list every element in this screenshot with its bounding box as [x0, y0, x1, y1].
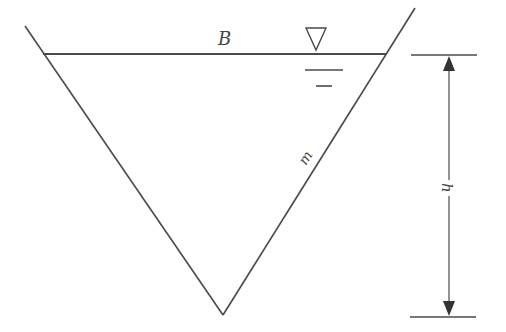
- side-slope-label: m: [295, 148, 316, 168]
- depth-label: h: [438, 183, 456, 193]
- arrow-down-icon: [443, 301, 455, 316]
- water-surface-triangle-icon: [305, 28, 343, 86]
- arrow-up-icon: [443, 56, 455, 71]
- top-width-label: B: [217, 28, 231, 49]
- left-channel-wall: [25, 26, 223, 315]
- channel-diagram: B m h: [0, 0, 506, 332]
